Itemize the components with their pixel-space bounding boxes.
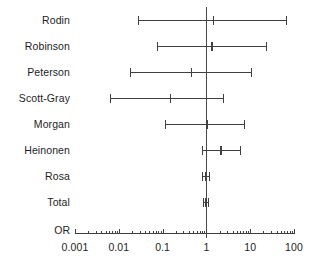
study-label-total: Total <box>47 197 70 208</box>
forest-row <box>203 198 209 207</box>
x-tick-label-0: 0.001 <box>62 242 89 253</box>
x-tick-label-1: 0.01 <box>108 242 129 253</box>
x-tick-label-2: 0.1 <box>155 242 170 253</box>
forest-plot: RodinRobinsonPetersonScott-GrayMorganHei… <box>0 0 314 264</box>
forest-row <box>138 16 287 25</box>
forest-rows-group <box>110 16 288 207</box>
study-label-peterson: Peterson <box>27 67 70 78</box>
x-axis-title: OR <box>54 225 70 236</box>
study-label-scott-gray: Scott-Gray <box>19 93 70 104</box>
study-label-morgan: Morgan <box>34 119 70 130</box>
forest-row <box>157 42 267 51</box>
forest-row <box>165 120 245 129</box>
x-axis-group <box>75 229 295 234</box>
x-tick-label-4: 10 <box>244 242 256 253</box>
forest-row <box>202 172 209 181</box>
study-label-rodin: Rodin <box>42 15 70 26</box>
study-label-rosa: Rosa <box>45 171 70 182</box>
x-tick-label-5: 100 <box>285 242 303 253</box>
study-label-heinonen: Heinonen <box>24 145 70 156</box>
forest-row <box>130 68 252 77</box>
forest-row <box>202 146 241 155</box>
study-label-robinson: Robinson <box>25 41 70 52</box>
x-tick-label-3: 1 <box>203 242 209 253</box>
